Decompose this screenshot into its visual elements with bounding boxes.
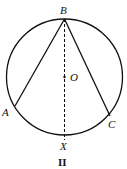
label-o: O <box>70 71 78 83</box>
circle-diagram: B O A C X II <box>0 0 127 169</box>
label-c: C <box>108 118 116 130</box>
figure-caption: II <box>58 156 67 168</box>
label-a: A <box>1 106 9 118</box>
diagram-canvas: B O A C X II <box>0 0 127 169</box>
chord-ba <box>15 19 65 106</box>
label-b: B <box>60 4 67 16</box>
center-point <box>63 76 65 78</box>
label-x: X <box>59 140 68 152</box>
